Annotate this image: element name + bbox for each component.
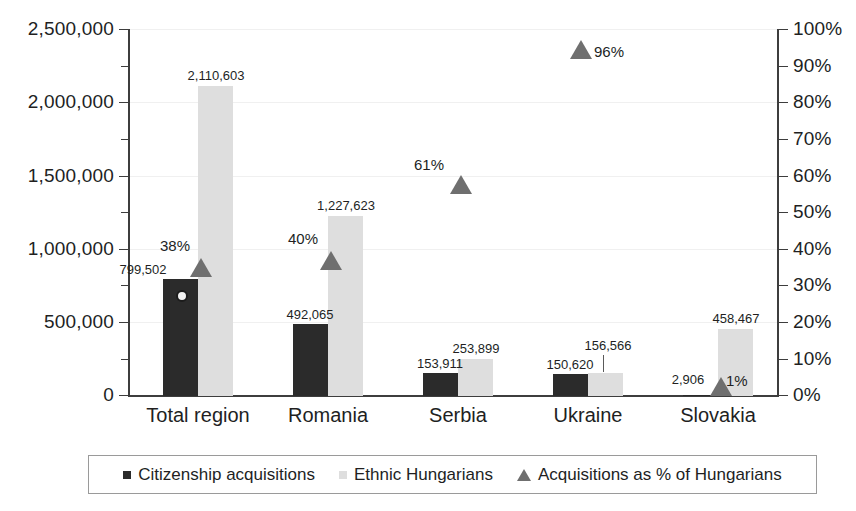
value-label-citizenship-slovakia: 2,906	[660, 372, 716, 387]
value-label-ethnic-romania: 1,227,623	[306, 198, 386, 213]
y-axis-right-tick-label: 80%	[793, 91, 832, 113]
y-tick-right-60	[779, 176, 788, 177]
y-axis-left-tick-label: 500,000	[0, 311, 114, 333]
x-axis-category-label-total-region: Total region	[123, 404, 273, 427]
value-label-ethnic-total-region: 2,110,603	[176, 68, 256, 83]
leader-line-ethnic-ukraine	[603, 355, 604, 372]
y-axis-left-tick-label: 1,000,000	[0, 238, 114, 260]
y-tick-right-10	[779, 359, 788, 360]
y-tick-right-100	[779, 29, 788, 30]
y-axis-left-tick-label: 2,500,000	[0, 18, 114, 40]
y-tick-left-2000000	[119, 102, 128, 103]
y-tick-right-30	[779, 285, 788, 286]
bar-ethnic-romania[interactable]	[328, 216, 363, 396]
y-tick-left-2500000	[119, 29, 128, 30]
marker-percent-serbia[interactable]	[450, 175, 472, 194]
percent-label-romania: 40%	[288, 230, 318, 247]
x-axis-category-label-serbia: Serbia	[383, 404, 533, 427]
legend-item-acquisitions-percent[interactable]: Acquisitions as % of Hungarians	[517, 465, 782, 485]
y-tick-left-minor-1250000	[121, 212, 128, 213]
value-label-citizenship-romania: 492,065	[277, 307, 343, 322]
legend-label-ethnic-hungarians: Ethnic Hungarians	[354, 465, 493, 485]
y-tick-left-minor-1750000	[121, 139, 128, 140]
marker-percent-ukraine[interactable]	[570, 40, 592, 59]
value-label-ethnic-slovakia: 458,467	[696, 311, 776, 326]
y-axis-right-tick-label: 100%	[793, 18, 842, 40]
y-axis-left-tick-label: 1,500,000	[0, 165, 114, 187]
value-label-citizenship-total-region: 799,502	[110, 262, 176, 277]
y-tick-left-0	[119, 395, 128, 396]
legend-square-light-icon	[339, 471, 347, 479]
y-axis-right-tick-label: 50%	[793, 201, 832, 223]
y-axis-left-tick-label: 2,000,000	[0, 91, 114, 113]
y-tick-right-50	[779, 212, 788, 213]
y-tick-right-70	[779, 139, 788, 140]
value-label-ethnic-serbia: 253,899	[438, 341, 514, 356]
marker-percent-total-region[interactable]	[190, 258, 212, 277]
y-tick-left-minor-2250000	[121, 66, 128, 67]
x-axis-category-label-slovakia: Slovakia	[643, 404, 793, 427]
y-tick-right-20	[779, 322, 788, 323]
y-tick-left-minor-250000	[121, 359, 128, 360]
value-label-citizenship-serbia: 153,911	[407, 356, 473, 371]
y-tick-right-0	[779, 395, 788, 396]
bar-citizenship-ukraine[interactable]	[553, 374, 588, 396]
bar-citizenship-romania[interactable]	[293, 324, 328, 396]
y-axis-right-tick-label: 40%	[793, 238, 832, 260]
y-tick-left-1500000	[119, 176, 128, 177]
y-axis-left-tick-label: 0	[0, 384, 114, 406]
y-tick-right-80	[779, 102, 788, 103]
legend-triangle-icon	[517, 469, 531, 481]
legend-square-dark-icon	[123, 471, 131, 479]
x-axis-category-label-romania: Romania	[253, 404, 403, 427]
bar-ethnic-ukraine[interactable]	[588, 373, 623, 396]
percent-label-serbia: 61%	[414, 156, 444, 173]
y-tick-right-40	[779, 249, 788, 250]
y-axis-right-tick-label: 60%	[793, 165, 832, 187]
legend-item-citizenship-acquisitions[interactable]: Citizenship acquisitions	[123, 465, 315, 485]
percent-label-total-region: 38%	[160, 237, 190, 254]
gridline-2500000	[128, 29, 778, 30]
y-axis-left-line	[128, 29, 130, 396]
legend-label-acquisitions-percent: Acquisitions as % of Hungarians	[538, 465, 782, 485]
y-axis-right-tick-label: 30%	[793, 274, 832, 296]
percent-label-ukraine: 96%	[594, 43, 624, 60]
y-axis-right-tick-label: 20%	[793, 311, 832, 333]
percent-label-slovakia: 1%	[726, 372, 748, 389]
y-axis-right-tick-label: 0%	[793, 384, 821, 406]
bar-ethnic-total-region[interactable]	[198, 86, 233, 396]
y-axis-right-tick-label: 10%	[793, 348, 832, 370]
y-tick-left-1000000	[119, 249, 128, 250]
value-label-citizenship-ukraine: 150,620	[537, 357, 603, 372]
x-axis-category-label-ukraine: Ukraine	[513, 404, 663, 427]
y-tick-right-90	[779, 66, 788, 67]
y-tick-left-minor-750000	[121, 285, 128, 286]
legend-label-citizenship-acquisitions: Citizenship acquisitions	[138, 465, 315, 485]
legend-item-ethnic-hungarians[interactable]: Ethnic Hungarians	[339, 465, 493, 485]
value-label-ethnic-ukraine: 156,566	[570, 338, 646, 353]
y-tick-left-500000	[119, 322, 128, 323]
chart-legend: Citizenship acquisitions Ethnic Hungaria…	[88, 455, 817, 494]
bar-artifact-dot	[176, 290, 188, 302]
y-axis-right-tick-label: 90%	[793, 55, 832, 77]
y-axis-right-tick-label: 70%	[793, 128, 832, 150]
bar-citizenship-serbia[interactable]	[423, 373, 458, 396]
marker-percent-romania[interactable]	[320, 251, 342, 270]
chart-canvas: 2,500,000 2,000,000 1,500,000 1,000,000 …	[0, 0, 856, 511]
